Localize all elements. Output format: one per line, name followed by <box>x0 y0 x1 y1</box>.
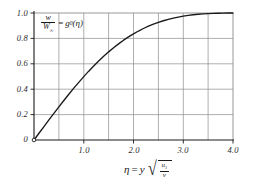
ytick-label-0: 0 <box>6 134 28 144</box>
radical-sign: √ <box>148 160 157 179</box>
radicand: u1 ν <box>158 160 173 179</box>
xtick-label-3.0: 3.0 <box>171 145 195 155</box>
function-argument-eta: (η) <box>73 19 83 28</box>
ytick-label-0.8: 0.8 <box>6 33 28 43</box>
equals-sign: = <box>58 19 63 28</box>
denominator-subscript-infinity: ∞ <box>50 28 54 33</box>
fraction-denominator-Winf: W∞ <box>41 23 55 34</box>
radicand-numerator-u1: u1 <box>160 162 170 171</box>
chart-figure: 1.0 0.8 0.6 0.4 0.2 0 1.0 2.0 3.0 4.0 w … <box>0 0 254 192</box>
xtick-label-4.0: 4.0 <box>221 145 245 155</box>
ytick-label-0.4: 0.4 <box>6 84 28 94</box>
ytick-label-0.2: 0.2 <box>6 109 28 119</box>
fraction-numerator-w: w <box>43 14 52 22</box>
square-root-expression: √ u1 ν <box>147 160 173 179</box>
ytick-label-0.6: 0.6 <box>6 58 28 68</box>
xtick-label-2.0: 2.0 <box>122 145 146 155</box>
curve-equation-label: w W∞ = g0(η) <box>40 14 83 34</box>
fraction-u1-over-nu: u1 ν <box>160 162 170 179</box>
xtick-label-1.0: 1.0 <box>72 145 96 155</box>
origin-point-marker <box>32 138 36 142</box>
radicand-denominator-nu: ν <box>161 172 168 179</box>
ytick-label-1.0: 1.0 <box>6 8 28 18</box>
denominator-W: W <box>43 22 50 31</box>
eta-symbol: η <box>124 164 129 175</box>
fraction-w-over-Winf: w W∞ <box>41 14 55 34</box>
variable-y: y <box>140 164 145 175</box>
numerator-subscript-one: 1 <box>165 165 167 170</box>
xaxis-equation-label: η = y √ u1 ν <box>124 160 172 179</box>
xaxis-equals-sign: = <box>131 164 137 175</box>
